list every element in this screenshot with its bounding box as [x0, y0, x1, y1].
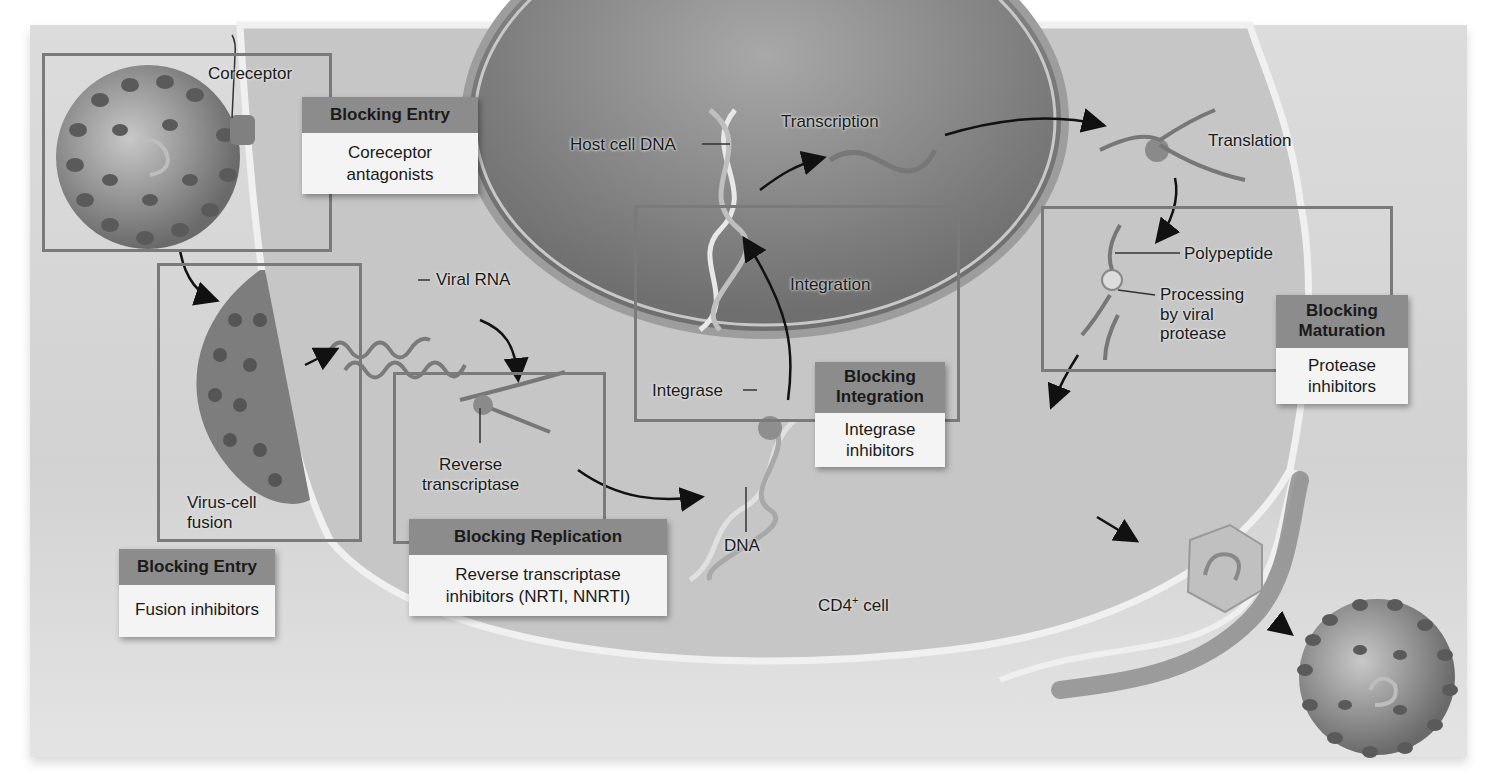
label-line: protease — [1160, 324, 1244, 344]
label-line: Processing — [1160, 285, 1244, 305]
box-body: Coreceptor antagonists — [302, 133, 478, 194]
blocking-maturation-box: Blocking Maturation Protease inhibitors — [1276, 295, 1408, 404]
label-line: Virus-cell — [187, 493, 257, 513]
blocking-entry-coreceptor-box: Blocking Entry Coreceptor antagonists — [302, 97, 478, 194]
label-line: transcriptase — [422, 475, 519, 495]
box-body-line: Protease — [1282, 355, 1402, 376]
label-translation: Translation — [1208, 131, 1291, 151]
box-body-line: Coreceptor — [308, 142, 472, 163]
box-title: Blocking Replication — [409, 519, 667, 555]
mature-virion-icon — [1297, 599, 1458, 758]
box-body: Protease inhibitors — [1276, 348, 1408, 405]
box-title-line: Blocking — [821, 367, 939, 387]
label-dna: DNA — [724, 536, 760, 556]
label-cd4-cell: CD4+ cell — [818, 594, 889, 615]
cell-label-suffix: cell — [858, 596, 888, 615]
label-processing: Processing by viral protease — [1160, 285, 1244, 344]
label-virus-cell-fusion: Virus-cell fusion — [187, 493, 257, 532]
box-body-line: Reverse transcriptase — [415, 564, 661, 585]
box-title: Blocking Entry — [302, 97, 478, 133]
label-line: by viral — [1160, 305, 1244, 325]
box-body-line: Integrase — [821, 419, 939, 440]
label-transcription: Transcription — [781, 112, 879, 132]
arrow-to-budding — [1275, 621, 1290, 633]
blocking-integration-box: Blocking Integration Integrase inhibitor… — [815, 362, 945, 467]
label-host-cell-dna: Host cell DNA — [570, 135, 676, 155]
label-polypeptide: Polypeptide — [1184, 244, 1273, 264]
label-integrase: Integrase — [652, 381, 723, 401]
label-coreceptor: Coreceptor — [208, 64, 292, 84]
box-title-line: Integration — [821, 387, 939, 407]
box-body-line: Fusion inhibitors — [125, 599, 269, 620]
box-body-line: inhibitors — [821, 440, 939, 461]
box-title-line: Maturation — [1282, 321, 1402, 341]
label-line: fusion — [187, 513, 257, 533]
blocking-replication-box: Blocking Replication Reverse transcripta… — [409, 519, 667, 616]
box-title-line: Blocking — [1282, 301, 1402, 321]
label-line: Reverse — [422, 455, 519, 475]
box-title: Blocking Integration — [815, 362, 945, 413]
label-reverse-transcriptase: Reverse transcriptase — [422, 455, 519, 494]
box-title: Blocking Entry — [119, 549, 275, 585]
box-body: Integrase inhibitors — [815, 413, 945, 468]
label-integration: Integration — [790, 275, 870, 295]
box-body: Fusion inhibitors — [119, 585, 275, 636]
cell-label-main: CD4 — [818, 596, 852, 615]
box-body-line: inhibitors — [1282, 376, 1402, 397]
box-title: Blocking Maturation — [1276, 295, 1408, 348]
label-viral-rna: Viral RNA — [436, 270, 510, 290]
box-body-line: inhibitors (NRTI, NNRTI) — [415, 586, 661, 607]
box-body: Reverse transcriptase inhibitors (NRTI, … — [409, 555, 667, 616]
blocking-entry-fusion-box: Blocking Entry Fusion inhibitors — [119, 549, 275, 637]
box-body-line: antagonists — [308, 164, 472, 185]
